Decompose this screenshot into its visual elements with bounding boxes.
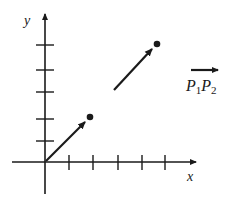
y-axis-label: y	[22, 13, 31, 28]
y-axis: y	[22, 13, 54, 194]
vector-diagram: x y P1P2	[0, 0, 228, 197]
endpoint-dot	[87, 114, 94, 121]
vector-name: P1P2	[185, 77, 217, 96]
endpoint-dot	[154, 41, 161, 48]
x-axis-label: x	[186, 169, 194, 184]
p2-subscript: 2	[211, 84, 217, 96]
vector-shaft	[114, 49, 152, 90]
x-axis: x	[12, 155, 196, 184]
p1-letter: P	[185, 77, 196, 94]
position-vector	[46, 114, 93, 161]
vector-label: P1P2	[185, 70, 218, 96]
p2-letter: P	[200, 77, 211, 94]
translated-vector	[114, 41, 160, 90]
